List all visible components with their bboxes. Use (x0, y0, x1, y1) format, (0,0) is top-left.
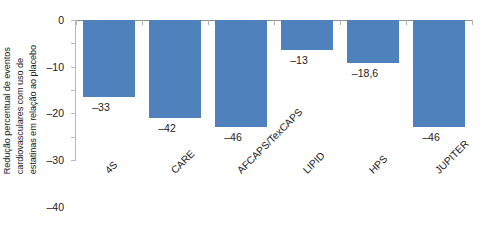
x-tick-mark (472, 20, 473, 25)
bar (281, 20, 333, 50)
bar (149, 20, 201, 118)
y-tick-mark: –30 (71, 90, 76, 91)
y-tick-mark: –20 (71, 67, 76, 68)
x-category-label: JUPITER (433, 138, 471, 176)
x-category-label: CARE (169, 148, 197, 176)
x-category-label: LIPID (301, 150, 327, 176)
bar (347, 20, 399, 63)
x-tick-mark (406, 20, 407, 25)
x-tick-mark (76, 20, 77, 25)
bar-chart-figure: Redução percentual de eventos cardiovasc… (0, 0, 482, 244)
bar-value-label: –46 (224, 131, 242, 143)
y-tick-label: –40 (46, 201, 64, 213)
bar (215, 20, 267, 127)
y-tick-label: –30 (46, 154, 64, 166)
y-tick-label: 0 (58, 14, 64, 26)
x-tick-mark (208, 20, 209, 25)
bar-value-label: –13 (290, 54, 308, 66)
x-category-label: HPS (367, 153, 390, 176)
plot-area: 0–10–20–30–40–50–60 –33–42–46–13–18,6–46… (76, 20, 472, 160)
y-tick-mark: –50 (71, 137, 76, 138)
y-tick-label: –20 (46, 107, 64, 119)
y-tick-label: –10 (46, 61, 64, 73)
y-tick-mark: –40 (71, 113, 76, 114)
y-axis-title: Redução percentual de eventos cardiovasc… (0, 0, 52, 180)
x-tick-mark (340, 20, 341, 25)
bar (83, 20, 135, 97)
x-tick-mark (274, 20, 275, 25)
x-category-label: 4S (103, 159, 120, 176)
bar-value-label: –33 (92, 101, 110, 113)
y-axis-title-line-3: estatinas em relação ao placebo (29, 45, 38, 174)
y-tick-mark: –10 (71, 43, 76, 44)
bar-value-label: –42 (158, 122, 176, 134)
y-tick-mark: –60 (71, 160, 76, 161)
y-axis-title-line-1: Redução percentual de eventos (3, 47, 12, 174)
bar (413, 20, 465, 127)
bar-value-label: –18,6 (352, 67, 378, 79)
bar-value-label: –46 (422, 131, 440, 143)
y-axis-title-line-2: cardiovasculares com uso de (16, 58, 25, 174)
x-tick-mark (142, 20, 143, 25)
